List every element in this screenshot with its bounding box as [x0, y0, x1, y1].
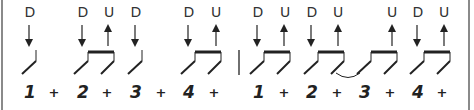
count-beat: 4	[179, 82, 199, 102]
count-and: +	[274, 85, 294, 100]
count-and: +	[380, 85, 400, 100]
quarter-note-slash	[22, 50, 36, 74]
tie-curve	[336, 73, 360, 78]
quarter-note-slash	[128, 50, 142, 74]
eighth-pair-slash	[250, 52, 290, 74]
eighth-pair-slash	[357, 52, 397, 74]
eighth-pair-slash	[304, 52, 344, 74]
eighth-pair-slash	[181, 52, 221, 74]
count-beat: 3	[126, 82, 146, 102]
count-beat: 4	[408, 82, 428, 102]
count-beat: 3	[355, 82, 375, 102]
count-beat: 1	[20, 82, 40, 102]
count-and: +	[44, 85, 64, 100]
rhythm-notation	[0, 0, 474, 110]
eighth-pair-slash	[410, 52, 450, 74]
count-beat: 1	[249, 82, 269, 102]
eighth-pair-slash	[74, 52, 114, 74]
count-beat: 2	[73, 82, 93, 102]
count-and: +	[327, 85, 347, 100]
count-and: +	[97, 85, 117, 100]
count-and: +	[204, 85, 224, 100]
count-and: +	[432, 85, 452, 100]
count-and: +	[151, 85, 171, 100]
count-beat: 2	[302, 82, 322, 102]
